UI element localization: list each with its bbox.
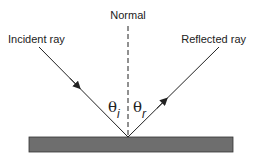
- incident-ray-label: Incident ray: [8, 33, 65, 45]
- angle-incidence-subscript: i: [117, 107, 120, 121]
- reflected-ray: [128, 47, 219, 137]
- normal-label: Normal: [110, 9, 145, 21]
- incident-ray: [39, 47, 128, 137]
- reflection-diagram: Normal Incident ray Reflected ray θ i θ …: [0, 0, 254, 162]
- reflected-ray-label: Reflected ray: [181, 33, 246, 45]
- angle-reflection-symbol: θ: [133, 98, 142, 116]
- incident-ray-arrow-icon: [70, 78, 78, 86]
- reflected-ray-arrow-icon: [157, 100, 165, 108]
- reflecting-surface: [29, 137, 233, 152]
- angle-incidence-symbol: θ: [108, 98, 117, 116]
